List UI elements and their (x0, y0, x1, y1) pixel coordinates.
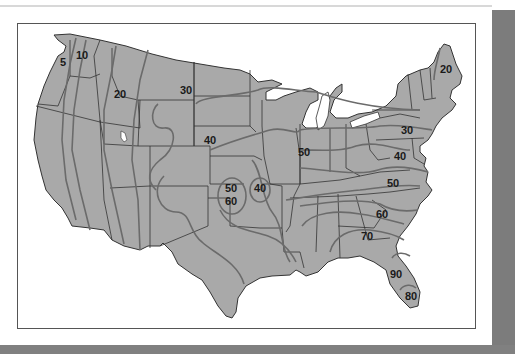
contour-label-wa-10: 10 (76, 49, 88, 61)
contour-label-il-50: 50 (298, 146, 310, 158)
contour-label-mt-30: 30 (180, 84, 192, 96)
contour-label-fl-90: 90 (390, 268, 402, 280)
contour-label-id-20: 20 (114, 88, 126, 100)
us-contour-map: 5 10 20 30 40 20 30 50 40 50 50 60 40 60… (0, 0, 515, 354)
contour-label-me-20: 20 (440, 63, 452, 75)
contour-label-fl-80: 80 (405, 290, 417, 302)
contour-label-ks-50: 50 (225, 182, 237, 194)
contour-label-sc-60: 60 (376, 208, 388, 220)
contour-label-va-40: 40 (394, 150, 406, 162)
contour-label-pa-30: 30 (401, 124, 413, 136)
contour-label-mo-40: 40 (254, 182, 266, 194)
contour-label-ok-60: 60 (225, 195, 237, 207)
contour-label-nc-50: 50 (387, 177, 399, 189)
contour-label-ga-70: 70 (361, 230, 373, 242)
contour-label-ne-40: 40 (204, 134, 216, 146)
contour-label-wa-5: 5 (60, 56, 66, 68)
